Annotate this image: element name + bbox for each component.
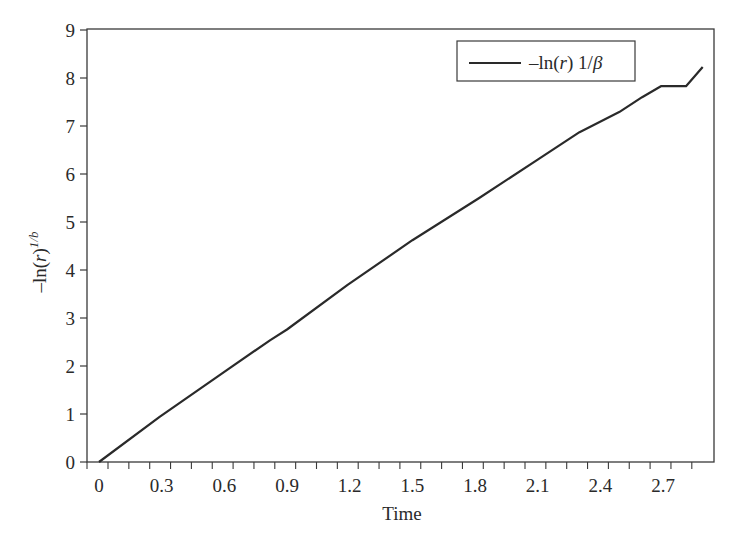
y-axis-title: –ln(r)1/b [26,231,51,293]
x-tick-label: 1.2 [338,475,362,496]
chart: 0123456789 00.30.60.91.21.51.82.12.42.7 … [0,0,740,552]
x-tick-label: 2.4 [588,475,612,496]
y-tick-label: 3 [66,308,76,329]
plot-area [87,29,714,462]
y-tick-label: 7 [66,116,76,137]
x-tick-label: 2.1 [526,475,550,496]
y-tick-label: 2 [66,356,76,377]
y-tick-label: 4 [66,260,76,281]
x-tick-label: 0 [94,475,104,496]
x-tick-label: 0.9 [275,475,299,496]
y-tick-label: 5 [66,212,76,233]
x-tick-label: 2.7 [651,475,675,496]
y-axis: 0123456789 [66,20,88,473]
y-tick-label: 8 [66,68,76,89]
y-tick-label: 1 [66,404,76,425]
x-tick-label: 1.8 [463,475,487,496]
x-axis-title: Time [382,503,421,524]
x-tick-label: 0.3 [150,475,174,496]
legend-label: –ln(r) 1/β [528,52,603,74]
y-tick-label: 0 [66,452,76,473]
y-tick-label: 6 [66,164,76,185]
x-tick-label: 0.6 [212,475,236,496]
x-axis: 00.30.60.91.21.51.82.12.42.7 [87,462,692,496]
x-tick-label: 1.5 [400,475,424,496]
legend: –ln(r) 1/β [457,41,635,81]
y-tick-label: 9 [66,20,76,41]
